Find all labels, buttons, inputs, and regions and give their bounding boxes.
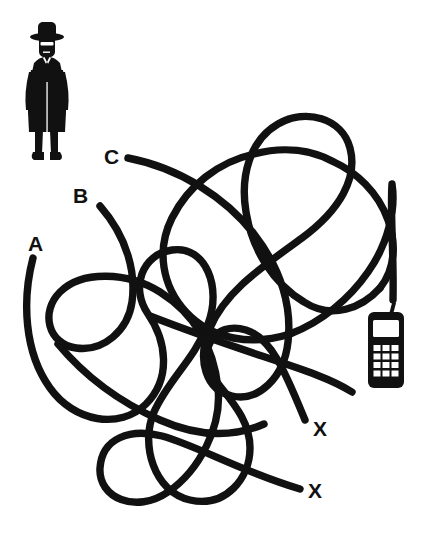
phone-key[interactable] [392,362,399,368]
mobile-phone[interactable] [368,303,404,388]
label-x-upper: X [313,417,327,440]
detective-figure [25,22,68,160]
phone-key[interactable] [374,354,381,360]
right-trouser [50,130,58,154]
head-shape [39,39,55,58]
label-a: A [28,232,43,255]
line-path-cross-mid[interactable] [150,316,352,392]
phone-key[interactable] [374,345,381,351]
phone-key[interactable] [383,371,390,377]
phone-key[interactable] [392,345,399,351]
line-path-c-upper-arc[interactable] [163,150,393,340]
phone-key[interactable] [374,362,381,368]
phone-key[interactable] [392,354,399,360]
left-shoe [32,152,44,160]
left-trouser [35,130,43,154]
phone-key[interactable] [383,362,390,368]
puzzle-illustration: A B C X X [0,0,428,559]
mouth-line [43,52,50,53]
puzzle-canvas: A B C X X [0,0,428,559]
phone-screen [373,320,399,337]
phone-key[interactable] [383,345,390,351]
right-shoe [50,152,62,160]
phone-key[interactable] [383,354,390,360]
phone-key[interactable] [392,371,399,377]
phone-key[interactable] [374,371,381,377]
tangled-lines-group [27,116,394,502]
sunglasses-icon [41,42,54,45]
coat-seam [46,82,47,132]
label-x-lower: X [308,479,322,502]
label-c: C [104,145,119,168]
hat-crown-icon [38,22,56,36]
label-b: B [73,184,88,207]
